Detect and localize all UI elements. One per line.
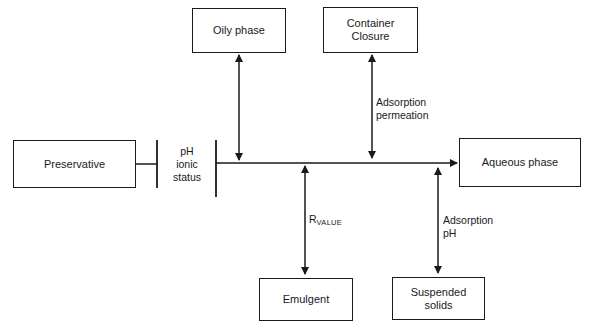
preservative-node: Preservative bbox=[13, 140, 136, 188]
oily-phase-label: Oily phase bbox=[213, 24, 265, 37]
oily-phase-node: Oily phase bbox=[192, 8, 286, 53]
emulgent-node: Emulgent bbox=[259, 278, 353, 321]
container-closure-node: Container Closure bbox=[323, 7, 418, 53]
emulgent-edge-label: RVALUE bbox=[309, 213, 342, 229]
suspended-edge-label: Adsorption pH bbox=[443, 214, 493, 240]
barrier-label: pH ionic status bbox=[166, 145, 208, 184]
preservative-label: Preservative bbox=[44, 158, 105, 171]
container-edge-label: Adsorption permeation bbox=[376, 96, 429, 122]
aqueous-phase-label: Aqueous phase bbox=[482, 156, 558, 169]
aqueous-phase-node: Aqueous phase bbox=[459, 138, 581, 187]
suspended-solids-node: Suspended solids bbox=[392, 277, 485, 320]
emulgent-label: Emulgent bbox=[283, 293, 329, 306]
